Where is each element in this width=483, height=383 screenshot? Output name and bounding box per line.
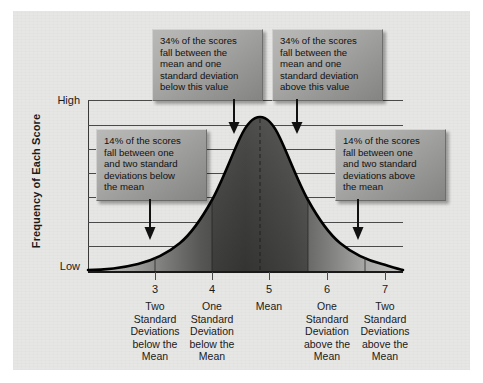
callout-line: fall between one — [104, 147, 200, 159]
x-tick-label-6: 6 — [307, 283, 347, 295]
x-category-line: Two — [348, 300, 422, 313]
x-tick-mark — [385, 272, 386, 280]
callout-34-percent-below: 34% of the scores fall between the mean … — [152, 29, 263, 101]
callout-line: below this value — [160, 81, 256, 93]
callout-line: 34% of the scores — [160, 35, 256, 47]
x-tick-label-3: 3 — [135, 283, 175, 295]
x-tick-mark — [155, 272, 156, 280]
callout-line: 14% of the scores — [104, 135, 200, 147]
callout-14-percent-below: 14% of the scores fall between one and t… — [96, 129, 207, 201]
callout-line: and two standard — [104, 158, 200, 170]
x-tick-label-7: 7 — [365, 283, 405, 295]
x-tick-mark — [327, 272, 328, 280]
callout-34-percent-above: 34% of the scores fall between the mean … — [272, 29, 383, 101]
callout-arrow-34-above — [290, 99, 304, 135]
callout-arrow-14-above — [351, 199, 365, 241]
callout-line: fall between one — [343, 147, 439, 159]
x-category-line: Deviations — [348, 325, 422, 338]
callout-line: standard deviation — [160, 70, 256, 82]
y-axis-title: Frequency of Each Score — [30, 81, 42, 281]
callout-line: deviations above — [343, 170, 439, 182]
x-tick-label-5: 5 — [249, 283, 289, 295]
y-tick-low: Low — [28, 260, 80, 272]
x-axis-line — [88, 271, 403, 273]
x-tick-mark — [212, 272, 213, 280]
figure-normal-distribution: Frequency of Each Score High Low — [0, 0, 483, 383]
callout-line: deviations below — [104, 170, 200, 182]
callout-line: 14% of the scores — [343, 135, 439, 147]
callout-arrow-14-below — [143, 199, 157, 241]
x-category-line: Mean — [175, 350, 249, 363]
callout-line: the mean — [343, 181, 439, 193]
x-category-plus2sd: Two Standard Deviations above the Mean — [348, 300, 422, 363]
callout-14-percent-above: 14% of the scores fall between one and t… — [335, 129, 446, 201]
callout-arrow-34-below — [227, 99, 241, 135]
callout-line: the mean — [104, 181, 200, 193]
callout-line: 34% of the scores — [280, 35, 376, 47]
callout-line: fall between the — [160, 47, 256, 59]
x-category-line: above the — [348, 338, 422, 351]
callout-line: fall between the — [280, 47, 376, 59]
callout-line: and two standard — [343, 158, 439, 170]
x-category-line: Mean — [348, 350, 422, 363]
callout-line: mean and one — [160, 58, 256, 70]
x-category-line: Deviation — [175, 325, 249, 338]
x-category-line: below the — [175, 338, 249, 351]
x-tick-mark — [269, 272, 270, 280]
callout-line: above this value — [280, 81, 376, 93]
callout-line: mean and one — [280, 58, 376, 70]
x-category-line: Standard — [175, 313, 249, 326]
x-category-line: Standard — [348, 313, 422, 326]
x-tick-label-4: 4 — [192, 283, 232, 295]
callout-line: standard deviation — [280, 70, 376, 82]
y-tick-high: High — [28, 94, 80, 106]
